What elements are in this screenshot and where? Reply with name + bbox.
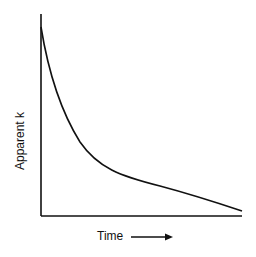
arrow-right-icon [131,234,173,241]
decay-curve [41,27,242,211]
chart: Apparent k Time [0,0,256,257]
x-axis-label: Time [97,229,123,243]
chart-plot-area [0,0,256,257]
y-axis-label: Apparent k [13,112,27,170]
